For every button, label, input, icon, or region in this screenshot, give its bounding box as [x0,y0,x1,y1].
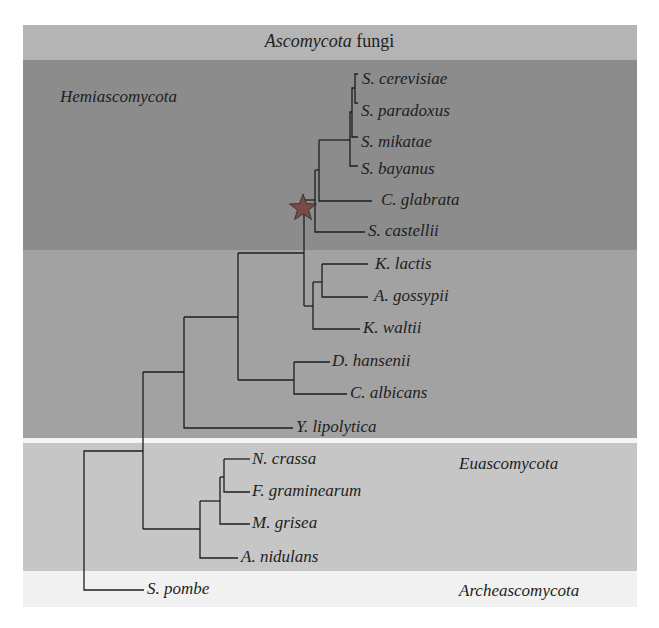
taxon-label: S. castellii [368,222,439,239]
taxon-label: D. hansenii [332,352,410,369]
taxon-label: M. grisea [252,514,317,531]
phylogenetic-tree [0,0,659,628]
taxon-label: S. pombe [147,580,209,597]
taxon-label: C. glabrata [381,191,459,208]
branch-cerevisiae-paradoxus [355,74,358,103]
branch-graminearum [224,459,250,492]
taxon-label: S. cerevisiae [362,70,447,87]
taxon-label: C. albicans [350,384,427,401]
star-icon [290,194,317,220]
branch-root-pombe [84,451,144,590]
taxon-label: Y. lipolytica [296,418,377,435]
branch-waltii [313,282,360,329]
branch-gossypii [322,264,368,297]
branch-bayanus [350,112,358,166]
taxon-label: F. graminearum [252,482,361,499]
taxon-label: K. lactis [375,255,432,272]
branch-nidulans [200,501,238,558]
taxon-label: A. gossypii [374,287,449,304]
taxon-label: K. waltii [363,319,422,336]
taxon-label: S. bayanus [361,160,435,177]
taxon-label: S. mikatae [361,133,432,150]
tree-branches [84,74,372,590]
taxon-label: S. paradoxus [361,102,450,119]
taxon-label: N. crassa [252,450,316,467]
taxon-label: A. nidulans [241,548,318,565]
